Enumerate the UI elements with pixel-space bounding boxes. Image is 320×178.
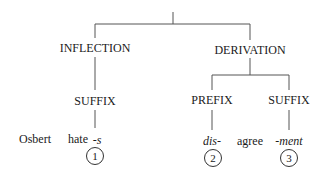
derivation-suffix-node: SUFFIX	[268, 94, 309, 106]
word-derivation-suffix: -ment	[275, 135, 302, 147]
word-stem: agree	[237, 135, 263, 147]
inflection-suffix-node: SUFFIX	[74, 95, 115, 107]
marker-1: 1	[86, 147, 104, 165]
word-verb: hate	[68, 133, 88, 145]
word-prefix: dis-	[203, 135, 221, 147]
marker-3: 3	[280, 149, 298, 167]
derivation-prefix-node: PREFIX	[191, 94, 232, 106]
marker-2: 2	[204, 149, 222, 167]
word-subject: Osbert	[19, 133, 51, 145]
word-inflection-suffix: -s	[93, 134, 102, 146]
tree-lines	[0, 0, 320, 178]
derivation-node: DERIVATION	[214, 44, 285, 56]
inflection-node: INFLECTION	[60, 42, 131, 54]
